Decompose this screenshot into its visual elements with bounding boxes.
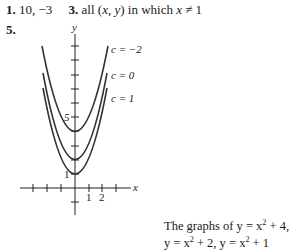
y-axis-label: y — [71, 21, 77, 33]
axes — [20, 34, 131, 215]
figure-caption: The graphs of y = x2 + 4, y = x2 + 2, y … — [164, 216, 289, 250]
x-tick-label-2: 2 — [99, 191, 105, 203]
caption-text: + 2, y = x — [194, 236, 246, 250]
y-tick-label-5: 5 — [64, 111, 70, 123]
caption-text: The graphs of y = x — [164, 219, 262, 233]
caption-line-1: The graphs of y = x2 + 4, — [164, 216, 289, 233]
caption-line-2: y = x2 + 2, y = x2 + 1 — [164, 233, 289, 250]
y-tick-label-1: 1 — [64, 168, 70, 180]
x-axis-label: x — [132, 181, 138, 193]
caption-text: + 1 — [249, 236, 269, 250]
caption-text: y = x — [164, 236, 190, 250]
caption-text: + 4, — [266, 219, 289, 233]
curve-label-c-minus-2: c = −2 — [111, 43, 142, 55]
curve-label-c-0: c = 0 — [111, 69, 135, 81]
curve-label-c-1: c = 1 — [111, 92, 134, 104]
x-tick-label-1: 1 — [86, 191, 92, 203]
